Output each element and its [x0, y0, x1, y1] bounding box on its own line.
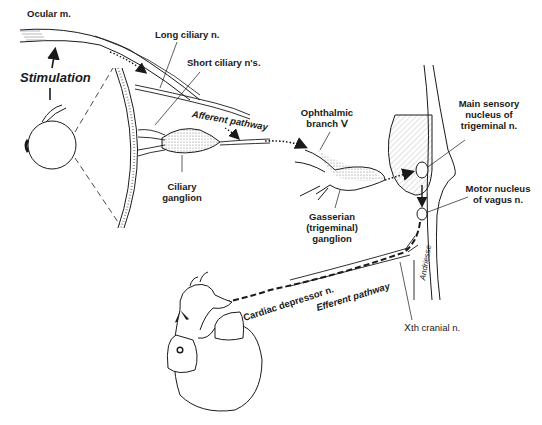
sa-node: [177, 347, 183, 353]
label-cranial-x: Ⅹth cranial n.: [404, 322, 460, 333]
label-long-ciliary: Long ciliary n.: [155, 29, 219, 40]
label-main-sensory-line3: trigeminal n.: [448, 120, 530, 131]
label-stimulation: Stimulation: [20, 72, 91, 83]
label-ophthalmic-line1: Ophthalmic: [297, 107, 357, 118]
globe-wall: [115, 68, 138, 228]
heart: [167, 272, 262, 411]
cranial-x-leader: [400, 262, 412, 320]
label-main-sensory: Main sensory nucleus of trigeminal n.: [448, 98, 530, 131]
label-gasserian-line2: (trigeminal): [297, 222, 367, 233]
main-sensory-nucleus: [416, 162, 428, 178]
gasserian-ganglion: [295, 150, 385, 200]
label-ciliary-line1: Ciliary: [157, 181, 207, 192]
label-short-ciliary: Short ciliary n's.: [187, 57, 261, 68]
short-ciliary-nerves: [138, 130, 165, 156]
diagram-drawing: [0, 0, 542, 425]
label-ophthalmic: Ophthalmic branch Ⅴ: [297, 107, 357, 129]
label-motor-vagus-line2: of vagus n.: [458, 194, 538, 205]
label-main-sensory-line1: Main sensory: [448, 98, 530, 109]
label-ciliary-line2: ganglion: [157, 192, 207, 203]
label-ocular-muscle: Ocular m.: [27, 8, 71, 19]
label-motor-vagus: Motor nucleus of vagus n.: [458, 183, 538, 205]
label-main-sensory-line2: nucleus of: [448, 109, 530, 120]
zoom-lines: [75, 68, 120, 225]
eyeball: [26, 105, 76, 169]
label-motor-vagus-line1: Motor nucleus: [458, 183, 538, 194]
pontine-nucleus-region: [388, 115, 432, 195]
label-gasserian: Gasserian (trigeminal) ganglion: [297, 211, 367, 244]
label-ciliary-ganglion: Ciliary ganglion: [157, 181, 207, 203]
afferent-arrow-ganglion: [225, 128, 238, 138]
ciliary-ganglion: [162, 129, 220, 153]
label-ophthalmic-line2: branch Ⅴ: [297, 118, 357, 129]
label-gasserian-line1: Gasserian: [297, 211, 367, 222]
afferent-dotted-path: [265, 141, 305, 147]
label-gasserian-line3: ganglion: [297, 233, 367, 244]
reflex-diagram: Ocular m. Stimulation Long ciliary n. Sh…: [0, 0, 542, 425]
motor-nucleus-vagus: [417, 208, 427, 220]
